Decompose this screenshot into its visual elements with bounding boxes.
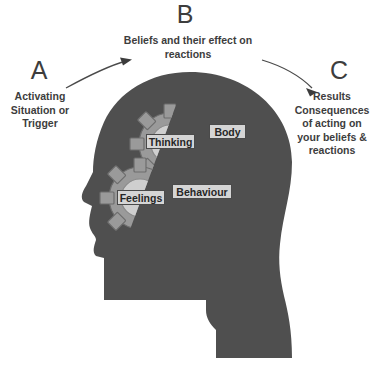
gear-label-feelings: Feelings xyxy=(117,190,165,205)
gear-label-thinking: Thinking xyxy=(146,134,195,149)
head-silhouette xyxy=(82,72,292,358)
gear-label-behaviour: Behaviour xyxy=(172,184,232,199)
block-text-activating-situation: Activating Situation or Trigger xyxy=(2,90,78,131)
label-letter-a: A xyxy=(16,58,62,83)
label-letter-c: C xyxy=(316,58,362,83)
cbt-abc-diagram: A B C Activating Situation or Trigger Be… xyxy=(0,0,374,368)
label-letter-b: B xyxy=(162,2,208,27)
block-text-results-consequences: Results Consequences of acting on your b… xyxy=(290,90,374,158)
block-text-beliefs: Beliefs and their effect on reactions xyxy=(104,34,272,61)
gear-label-body: Body xyxy=(209,124,246,139)
arrow-a-to-b xyxy=(66,58,132,89)
